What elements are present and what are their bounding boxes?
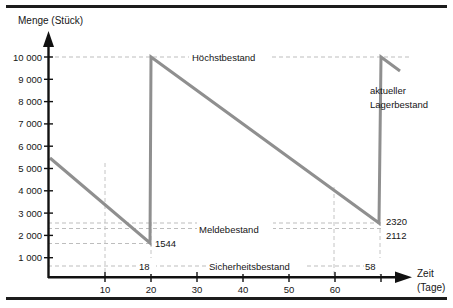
annotation-day-18: 18: [139, 261, 150, 272]
inventory-level-line: [50, 57, 400, 243]
annotation-value-1544: 1544: [155, 238, 176, 249]
ytick-label-9000: 9 000: [18, 74, 42, 85]
xtick-label-60: 60: [330, 284, 341, 295]
ytick-label-2000: 2 000: [18, 230, 42, 241]
annotation-aktueller-lagerbestand-line2: Lagerbestand: [370, 99, 428, 110]
ytick-label-4000: 4 000: [18, 185, 42, 196]
figure-container: 10 000 9 000 8 000 7 000 6 000 5 000 4 0…: [0, 0, 453, 308]
ytick-label-3000: 3 000: [18, 208, 42, 219]
y-axis-arrowhead: [43, 31, 54, 47]
ytick-label-5000: 5 000: [18, 163, 42, 174]
annotation-sicherheitsbestand: Sicherheitsbestand: [209, 261, 290, 272]
annotation-day-58: 58: [365, 261, 376, 272]
xtick-label-20: 20: [146, 284, 157, 295]
annotation-aktueller-lagerbestand-line1: aktueller: [370, 85, 406, 96]
x-axis-title-line1: Zeit: [417, 268, 434, 279]
xtick-label-30: 30: [192, 284, 203, 295]
ytick-label-8000: 8 000: [18, 96, 42, 107]
ytick-label-6000: 6 000: [18, 141, 42, 152]
xtick-label-10: 10: [100, 284, 111, 295]
ytick-label-7000: 7 000: [18, 118, 42, 129]
annotation-value-2320: 2320: [386, 216, 407, 227]
annotation-value-2112: 2112: [386, 230, 406, 241]
xtick-label-50: 50: [284, 284, 295, 295]
x-axis-title-line2: (Tage): [417, 282, 445, 293]
inventory-sawtooth-chart: 10 000 9 000 8 000 7 000 6 000 5 000 4 0…: [0, 0, 453, 308]
y-axis: 10 000 9 000 8 000 7 000 6 000 5 000 4 0…: [13, 15, 83, 278]
annotation-hoechstbestand: Höchstbestand: [192, 52, 255, 63]
ytick-label-1000: 1 000: [18, 252, 42, 263]
ytick-label-10000: 10 000: [13, 52, 42, 63]
annotation-meldebestand: Meldebestand: [199, 224, 259, 235]
xtick-label-40: 40: [238, 284, 249, 295]
chart-annotations: Höchstbestand aktueller Lagerbestand 154…: [138, 48, 428, 274]
y-axis-title: Menge (Stück): [18, 15, 83, 26]
x-axis-arrowhead: [395, 272, 412, 284]
